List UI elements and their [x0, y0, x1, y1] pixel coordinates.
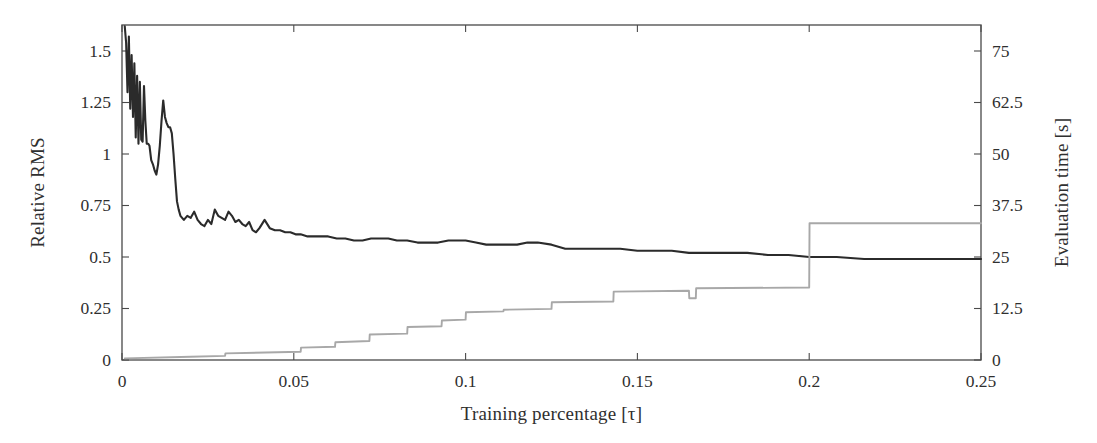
y-axis-right-tick-label: 62.5 — [992, 92, 1023, 112]
y-axis-right-tick-label: 25 — [992, 247, 1010, 267]
x-axis-tick-label: 0.1 — [455, 371, 477, 391]
x-axis-tick-label: 0.2 — [798, 371, 820, 391]
y-axis-left-tick-label: 1 — [102, 144, 111, 164]
y-axis-right-tick-label: 0 — [992, 350, 1001, 370]
chart-plot: 00.250.50.7511.251.5012.52537.55062.5750… — [0, 0, 1097, 443]
y-axis-right-tick-label: 37.5 — [992, 195, 1023, 215]
y-axis-left-tick-label: 0.25 — [80, 298, 111, 318]
y-axis-left-tick-label: 0.5 — [89, 247, 111, 267]
x-axis-title: Training percentage [τ] — [461, 403, 642, 425]
x-axis-tick-label: 0.25 — [966, 371, 997, 391]
y-axis-left-tick-label: 0.75 — [80, 195, 111, 215]
y-axis-left-tick-label: 1.5 — [89, 41, 111, 61]
y-axis-right-tick-label: 75 — [992, 41, 1010, 61]
x-axis-tick-label: 0 — [118, 371, 127, 391]
x-axis-tick-label: 0.15 — [622, 371, 653, 391]
y-axis-left-tick-label: 1.25 — [80, 92, 111, 112]
y-axis-right-title: Evaluation time [s] — [1051, 118, 1073, 267]
y-axis-left-title: Relative RMS — [27, 137, 49, 248]
x-axis-tick-label: 0.05 — [278, 371, 309, 391]
figure-container: 00.250.50.7511.251.5012.52537.55062.5750… — [0, 0, 1097, 443]
y-axis-right-tick-label: 12.5 — [992, 298, 1023, 318]
y-axis-left-tick-label: 0 — [102, 350, 111, 370]
y-axis-right-tick-label: 50 — [992, 144, 1010, 164]
evaluation-time-line — [125, 223, 981, 358]
